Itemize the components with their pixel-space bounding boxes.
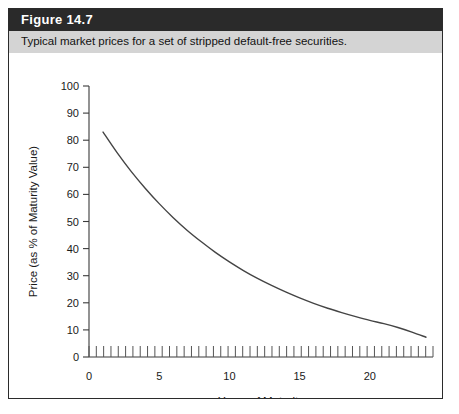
x-axis-title: Years of Maturity [218,395,304,398]
price-curve [103,132,426,337]
x-axis: 05101520 [86,357,433,382]
figure-caption: Typical market prices for a set of strip… [21,35,347,47]
x-axis-tick-label: 0 [86,370,92,382]
chart-plot-area: 0102030405060708090100 05101520 Years of… [9,53,442,398]
x-axis-minor-hatch-marks [89,346,433,357]
y-axis-tick-label: 70 [67,161,79,173]
x-axis-tick-label: 15 [293,370,305,382]
y-axis-tick-label: 60 [67,188,79,200]
y-axis-tick-label: 100 [61,80,79,92]
figure-caption-bar: Typical market prices for a set of strip… [9,31,442,53]
price-vs-maturity-line-chart: 0102030405060708090100 05101520 Years of… [9,53,442,398]
y-axis-tick-label: 40 [67,243,79,255]
y-axis-title: Price (as % of Maturity Value) [27,146,39,297]
y-axis-tick-label: 0 [73,351,79,363]
x-axis-tick-label: 20 [364,370,376,382]
figure-title-bar: Figure 14.7 [9,9,442,31]
figure-number-label: Figure 14.7 [21,12,93,27]
y-axis-tick-label: 10 [67,324,79,336]
y-axis-tick-label: 90 [67,107,79,119]
y-axis-tick-label: 50 [67,216,79,228]
figure-frame: Figure 14.7 Typical market prices for a … [8,8,443,399]
y-axis: 0102030405060708090100 [61,80,89,363]
y-axis-tick-label: 30 [67,270,79,282]
price-curve-path [103,132,426,337]
x-axis-tick-label: 10 [223,370,235,382]
x-axis-tick-label: 5 [156,370,162,382]
y-axis-tick-label: 20 [67,297,79,309]
y-axis-tick-label: 80 [67,134,79,146]
